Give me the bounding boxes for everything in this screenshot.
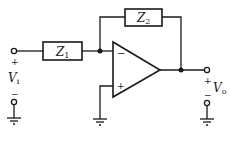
opamp-noninverting-sign: +: [117, 81, 125, 91]
noninverting-ground-wire: [100, 86, 113, 119]
output-plus-sign: +: [204, 76, 212, 86]
z2-label: Z2: [136, 11, 150, 26]
output-minus-sign: −: [204, 90, 212, 100]
junction-dot-inverting: [98, 49, 103, 54]
junction-dot-output: [179, 68, 184, 73]
input-voltage-label: Vi: [8, 71, 20, 86]
input-minus-terminal: [11, 99, 16, 104]
ground-icon-input: [7, 118, 21, 124]
feedback-right-wire: [162, 17, 181, 70]
ground-icon-opamp: [93, 119, 107, 125]
circuit-diagram: Z1 Z2 − + + Vi − + Vo −: [0, 0, 230, 141]
output-minus-terminal: [204, 100, 209, 105]
ground-icon-output: [200, 119, 214, 125]
input-plus-terminal: [11, 48, 16, 53]
input-minus-sign: −: [11, 89, 19, 99]
output-voltage-label: Vo: [213, 81, 227, 96]
opamp-inverting-sign: −: [117, 48, 125, 59]
output-plus-terminal: [204, 67, 209, 72]
z1-label: Z1: [55, 45, 69, 60]
input-plus-sign: +: [11, 57, 19, 67]
